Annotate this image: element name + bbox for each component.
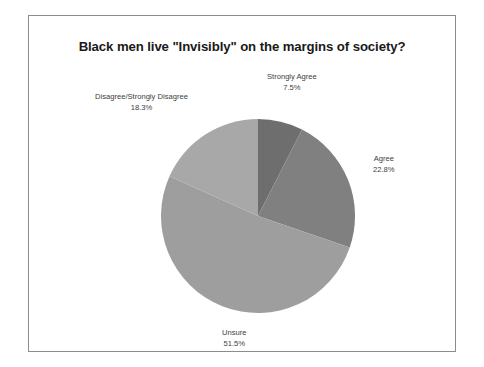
- slice-label-value: 22.8%: [373, 165, 395, 176]
- pie-chart: [161, 119, 355, 313]
- slice-label-agree: Agree 22.8%: [373, 154, 395, 176]
- slice-label-value: 51.5%: [222, 339, 246, 350]
- slice-label-name: Agree: [373, 154, 395, 165]
- slice-label-name: Disagree/Strongly Disagree: [95, 92, 188, 103]
- slice-label-name: Unsure: [222, 328, 246, 339]
- slice-label-strongly-agree: Strongly Agree 7.5%: [267, 72, 317, 94]
- pie-chart-svg: [161, 119, 355, 313]
- slice-label-value: 7.5%: [267, 83, 317, 94]
- page-title: Black men live "Invisibly" on the margin…: [29, 39, 455, 54]
- chart-frame: Black men live "Invisibly" on the margin…: [28, 15, 456, 352]
- slice-label-name: Strongly Agree: [267, 72, 317, 83]
- slice-label-unsure: Unsure 51.5%: [222, 328, 246, 350]
- slice-label-value: 18.3%: [95, 103, 188, 114]
- slice-label-disagree: Disagree/Strongly Disagree 18.3%: [95, 92, 188, 114]
